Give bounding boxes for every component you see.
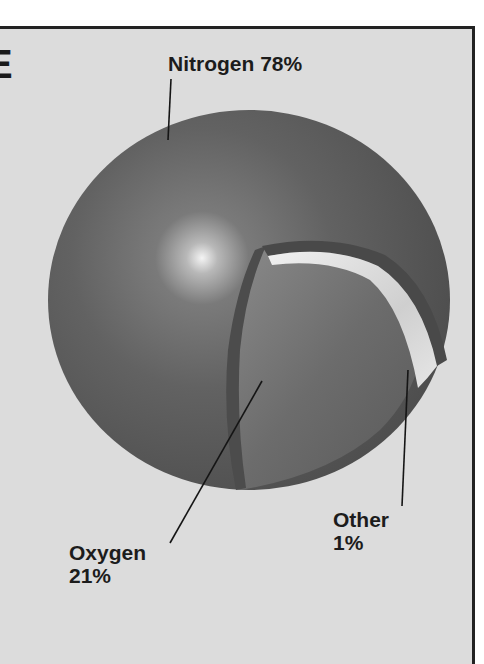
other-label-name: Other xyxy=(333,508,389,531)
other-label-value: 1% xyxy=(333,531,389,554)
oxygen-label-value: 21% xyxy=(69,564,146,587)
other-label: Other 1% xyxy=(333,508,389,554)
oxygen-label-name: Oxygen xyxy=(69,541,146,564)
oxygen-label: Oxygen 21% xyxy=(69,541,146,587)
nitrogen-label-text: Nitrogen 78% xyxy=(168,52,302,75)
nitrogen-label: Nitrogen 78% xyxy=(168,52,302,75)
